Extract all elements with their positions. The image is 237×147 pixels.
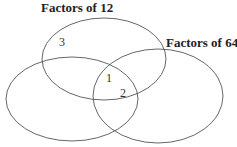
label-factors-of-64: Factors of 64 (166, 35, 237, 50)
number-3: 3 (59, 35, 65, 49)
set-factors-of-64 (93, 49, 223, 143)
set-factors-of-12 (42, 18, 166, 100)
label-factors-of-12: Factors of 12 (41, 0, 113, 15)
venn-diagram: Factors of 12 Factors of 64 3 1 2 (0, 0, 237, 147)
number-1: 1 (106, 71, 112, 85)
number-2: 2 (120, 86, 126, 100)
